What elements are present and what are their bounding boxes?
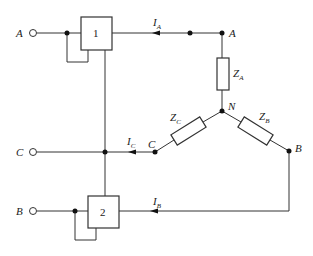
impedance-zc-label: ZC [170,111,181,126]
terminal-c [30,149,37,156]
block-1-label: 1 [93,27,99,39]
impedance-zb-label: ZB [259,110,270,125]
terminal-b-label: B [16,205,23,217]
junction-dot [73,209,78,214]
current-ic-label: IC [126,135,136,150]
node-a-dot [220,31,225,36]
terminal-a [30,30,37,37]
block-2-label: 2 [100,206,106,218]
terminal-b [30,208,37,215]
current-ic-arrow [128,150,136,155]
current-ia-label: IA [152,16,162,31]
node-c-label: C [148,138,156,150]
circuit-diagram: A C B 1 2 A N C B ZA ZC ZB IA IC IB [0,0,313,256]
junction-dot [65,31,70,36]
current-ib-label: IB [152,195,162,210]
junction-dot [103,150,108,155]
terminal-a-label: A [15,27,23,39]
current-ia-arrow [152,31,160,36]
impedance-za-label: ZA [233,67,244,82]
node-c-dot [153,150,158,155]
junction-dot [188,31,193,36]
node-b-label: B [295,142,302,154]
node-n-label: N [227,100,236,112]
node-b-dot [287,149,292,154]
terminal-c-label: C [16,146,24,158]
impedance-za [217,58,229,90]
node-a-label: A [228,27,236,39]
node-n-dot [220,109,225,114]
